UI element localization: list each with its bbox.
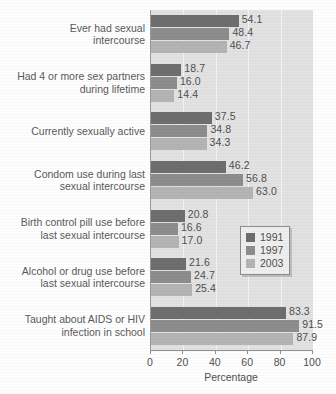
bar-2003 [151,333,293,345]
x-tick-mark [150,350,151,354]
bar-value-label: 91.5 [302,318,323,330]
legend-item: 1991 [246,231,283,244]
bar-row: 83.3 [151,307,313,319]
bar-row: 46.7 [151,41,313,53]
bar-row: 56.8 [151,174,313,186]
legend-label: 2003 [260,257,283,270]
x-tick-label: 40 [209,356,221,368]
legend-swatch-1997 [246,246,255,255]
bar-group: 18.716.014.4 [151,64,313,103]
x-tick-label: 0 [147,356,153,368]
bar-group: 46.256.863.0 [151,161,313,200]
bar-row: 91.5 [151,320,313,332]
x-tick-label: 20 [177,356,189,368]
bar-1991 [151,112,212,124]
x-tick-mark [280,350,281,354]
category-label: Taught about AIDS or HIV infection in sc… [5,313,145,338]
bar-group: 37.534.834.3 [151,112,313,151]
bar-1991 [151,64,181,76]
bar-value-label: 16.6 [181,221,202,233]
bar-value-label: 46.7 [230,39,251,51]
bar-value-label: 18.7 [184,62,205,74]
category-label: Currently sexually active [5,125,145,138]
legend-swatch-2003 [246,259,255,268]
category-label: Birth control pill use before last sexua… [5,216,145,241]
bar-1991 [151,307,286,319]
bar-value-label: 17.0 [182,234,203,246]
bar-value-label: 54.1 [242,13,263,25]
bar-value-label: 20.8 [188,208,209,220]
bar-value-label: 24.7 [194,269,215,281]
bar-row: 87.9 [151,333,313,345]
bar-1991 [151,15,239,27]
bar-group: 83.391.587.9 [151,307,313,346]
bar-value-label: 46.2 [229,159,250,171]
legend-label: 1991 [260,231,283,244]
bar-row: 20.8 [151,210,313,222]
bar-value-label: 83.3 [289,305,310,317]
bar-value-label: 25.4 [195,282,216,294]
bar-1997 [151,174,243,186]
x-tick-label: 60 [241,356,253,368]
x-axis: 020406080100 [150,350,312,351]
bar-1997 [151,28,229,40]
bar-2003 [151,90,174,102]
legend-item: 1997 [246,244,283,257]
bar-row: 37.5 [151,112,313,124]
legend-swatch-1991 [246,233,255,242]
bar-2003 [151,236,179,248]
bar-1997 [151,320,299,332]
bar-2003 [151,284,192,296]
bar-2003 [151,138,207,150]
bar-value-label: 56.8 [246,172,267,184]
bar-row: 63.0 [151,187,313,199]
chart-legend: 199119972003 [240,226,290,275]
bar-value-label: 87.9 [296,331,317,343]
category-label: Had 4 or more sex partners during lifeti… [5,70,145,95]
legend-label: 1997 [260,244,283,257]
bar-group: 54.148.446.7 [151,15,313,54]
x-tick-mark [215,350,216,354]
x-tick-mark [247,350,248,354]
bar-row: 34.8 [151,125,313,137]
bar-value-label: 63.0 [256,185,277,197]
bar-1991 [151,210,185,222]
bar-row: 25.4 [151,284,313,296]
bar-1991 [151,258,186,270]
bar-1997 [151,125,207,137]
bar-row: 34.3 [151,138,313,150]
bar-value-label: 34.8 [210,123,231,135]
x-tick-mark [312,350,313,354]
bar-row: 46.2 [151,161,313,173]
bar-row: 16.0 [151,77,313,89]
bar-chart: 54.148.446.718.716.014.437.534.834.346.2… [0,0,336,394]
x-tick-label: 100 [303,356,321,368]
category-label: Ever had sexual intercourse [5,22,145,47]
category-label: Condom use during last sexual intercours… [5,168,145,193]
bar-value-label: 14.4 [177,88,198,100]
bar-1997 [151,77,177,89]
legend-item: 2003 [246,257,283,270]
bar-value-label: 21.6 [189,256,210,268]
x-tick-mark [182,350,183,354]
bar-1997 [151,223,178,235]
x-tick-label: 80 [274,356,286,368]
bar-row: 14.4 [151,90,313,102]
x-axis-title: Percentage [150,371,312,383]
bar-value-label: 37.5 [215,110,236,122]
bar-2003 [151,41,227,53]
bar-value-label: 34.3 [210,136,231,148]
bar-value-label: 48.4 [232,26,253,38]
bar-row: 18.7 [151,64,313,76]
bar-1991 [151,161,226,173]
bar-2003 [151,187,253,199]
bar-1997 [151,271,191,283]
bar-value-label: 16.0 [180,75,201,87]
plot-area: 54.148.446.718.716.014.437.534.834.346.2… [150,10,313,350]
category-label: Alcohol or drug use before last sexual i… [5,265,145,290]
